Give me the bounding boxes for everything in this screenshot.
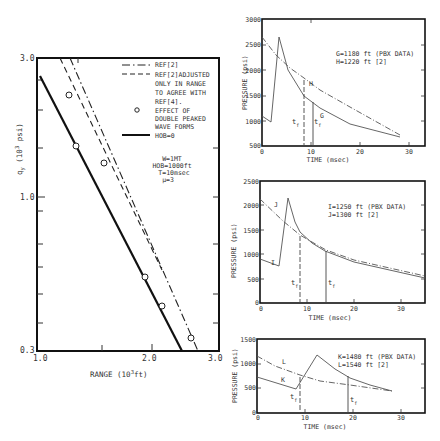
tf-label: tf xyxy=(350,396,357,406)
bot-y-tick: 1500 xyxy=(240,336,256,344)
mid-x-tick: 0 xyxy=(259,305,263,313)
label-l: L xyxy=(282,358,286,366)
top-x-tick: 20 xyxy=(356,148,364,156)
mid-y-tick: 2000 xyxy=(243,202,259,210)
mid-legend-i: I=1250 ft (PBX DATA) xyxy=(328,203,406,211)
left-params: W=1MT HOB=1000ft T=10msec μ=3 xyxy=(152,155,191,184)
left-y-tick-1: 1.0 xyxy=(20,193,35,202)
bot-x-tick: 10 xyxy=(301,414,309,422)
top-x-axis-label: TIME (msec) xyxy=(306,156,349,164)
legend-adjusted-3: TO AGREE WITH xyxy=(155,89,206,97)
mid-x-tick: 20 xyxy=(350,305,358,313)
top-x-tick: 10 xyxy=(307,148,315,156)
bot-y-tick: 1000 xyxy=(240,360,256,368)
legend-effect: EFFECT OF xyxy=(155,107,190,115)
mid-y-tick: 1500 xyxy=(243,227,259,235)
top-x-tick: 30 xyxy=(405,148,413,156)
middle-chart: 2500 2000 1500 1000 500 0 0 10 20 30 TIM… xyxy=(230,178,425,322)
label-j: J xyxy=(274,201,278,209)
label-i: I xyxy=(271,259,275,267)
label-h: H xyxy=(309,80,313,88)
tf-label: tf xyxy=(291,279,298,289)
left-x-axis-label: RANGE (103ft) xyxy=(90,369,148,379)
mid-y-axis-label: PRESSURE (psi) xyxy=(230,223,238,278)
legend-adjusted-4: REF[4]. xyxy=(155,98,182,106)
left-chart-frame xyxy=(37,58,219,351)
legend-ref2: REF[2] xyxy=(155,61,178,69)
param-mu: μ=3 xyxy=(162,176,174,184)
top-x-tick: 0 xyxy=(260,148,264,156)
label-g: G xyxy=(320,112,324,120)
bot-legend-k: K=1480 ft (PBX DATA) xyxy=(338,353,416,361)
bot-y-tick: 500 xyxy=(244,384,256,392)
bot-x-axis-label: TIME (msec) xyxy=(303,423,346,431)
figure-canvas: 3.0 1.0 0.3 1.0 2.0 3.0 RANGE (103ft) qy… xyxy=(0,0,440,441)
mid-y-tick: 1000 xyxy=(243,251,259,259)
left-y-tick-3: 3.0 xyxy=(20,54,35,63)
legend-adjusted: REF[2]ADJUSTED xyxy=(155,71,210,79)
mid-x-tick: 30 xyxy=(397,305,405,313)
label-k: K xyxy=(281,376,285,384)
mid-x-axis-label: TIME (msec) xyxy=(308,314,351,322)
bottom-chart: 1500 1000 500 0 0 10 20 30 TIME (msec) P… xyxy=(231,336,425,431)
top-legend-h: H=1220 ft [2] xyxy=(336,58,387,66)
top-y-axis-label: PRESSURE (psi) xyxy=(241,55,249,110)
mid-y-tick: 500 xyxy=(247,276,259,284)
bot-legend-l: L=1540 ft [2] xyxy=(338,361,389,369)
tf-label: tf xyxy=(292,118,299,128)
top-y-tick: 3000 xyxy=(245,16,261,24)
legend-hob: HOB=0 xyxy=(155,132,175,140)
left-y-axis-label: qy (103 psi) xyxy=(14,123,26,175)
top-chart: 3000 2500 2000 1500 1000 500 0 10 20 30 … xyxy=(241,16,425,164)
top-y-tick: 1000 xyxy=(245,118,261,126)
mid-y-tick: 2500 xyxy=(243,178,259,186)
top-y-tick: 2500 xyxy=(245,41,261,49)
top-legend-g: G=1180 ft (PBX DATA) xyxy=(336,50,414,58)
left-y-ticks xyxy=(37,58,219,351)
top-chart-frame xyxy=(262,19,425,146)
legend-effect-2: DOUBLE PEAKED xyxy=(155,115,206,123)
tf-label: tf xyxy=(290,393,297,403)
tf-label: tf xyxy=(328,279,335,289)
left-legend: REF[2] REF[2]ADJUSTED ONLY IN RANGE TO A… xyxy=(122,61,210,140)
mid-x-tick: 10 xyxy=(303,305,311,313)
bot-x-tick: 30 xyxy=(397,414,405,422)
left-x-tick-1: 1.0 xyxy=(33,354,48,363)
left-chart: 3.0 1.0 0.3 1.0 2.0 3.0 RANGE (103ft) qy… xyxy=(14,54,223,379)
ref2-adjusted-line xyxy=(60,58,162,270)
left-x-tick-2: 2.0 xyxy=(142,354,157,363)
mid-legend-j: J=1300 ft [2] xyxy=(328,211,379,219)
legend-adjusted-2: ONLY IN RANGE xyxy=(155,80,206,88)
legend-effect-3: WAVE FORMS xyxy=(155,123,194,131)
bot-x-tick: 20 xyxy=(349,414,357,422)
bot-x-tick: 0 xyxy=(256,414,260,422)
left-x-tick-3: 3.0 xyxy=(208,354,223,363)
middle-chart-frame xyxy=(260,181,425,303)
bot-y-axis-label: PRESSURE (psi) xyxy=(231,348,239,403)
